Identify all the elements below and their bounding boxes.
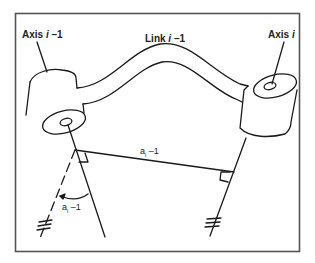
axis-curr-leader [272,42,284,84]
joint-curr-cylinder [240,70,299,137]
twist-angle-label: ai –1 [62,202,81,214]
axis-prev-label: Axis i –1 [22,29,63,40]
common-normal-label: ai –1 [140,146,159,158]
axis-curr-line [210,138,246,236]
parallel-hatch-right [205,218,221,227]
twist-angle-arrowhead [60,194,65,199]
right-angle-mark-right [220,172,230,182]
axis-curr-label: Axis i [268,29,295,40]
link-body [77,44,248,104]
link-label: Link i –1 [145,33,185,44]
axis-prev-line [68,125,105,237]
parallel-hatch-left [37,220,52,230]
joint-prev-cylinder [26,70,88,139]
figure-frame [16,14,300,252]
axis-prev-leader [37,42,47,72]
